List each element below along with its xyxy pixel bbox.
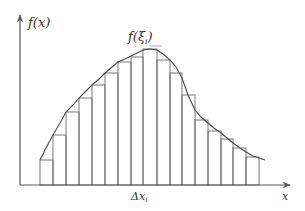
function-curve xyxy=(40,49,265,160)
rectangle-bars xyxy=(40,49,259,185)
riemann-rectangle xyxy=(221,139,233,185)
riemann-rectangle xyxy=(208,131,221,185)
riemann-rectangle xyxy=(182,95,195,185)
riemann-rectangle xyxy=(66,112,79,185)
riemann-rectangle xyxy=(53,135,66,185)
riemann-rectangle xyxy=(233,148,246,185)
riemann-rectangle xyxy=(118,62,131,185)
riemann-rectangle xyxy=(40,160,53,185)
sample-value-label: f(ξi) xyxy=(127,29,153,46)
riemann-rectangle xyxy=(92,85,105,185)
riemann-rectangle xyxy=(143,49,157,185)
riemann-rectangle xyxy=(131,57,143,185)
riemann-rectangle xyxy=(157,60,170,185)
riemann-rectangle xyxy=(195,120,208,185)
y-axis-label: f(x) xyxy=(27,15,50,30)
delta-x-label: Δxi xyxy=(130,190,147,204)
riemann-sum-diagram: f(x) f(ξi) Δxi x xyxy=(0,0,305,211)
riemann-rectangle xyxy=(246,157,259,185)
riemann-rectangle xyxy=(170,73,182,185)
riemann-rectangle xyxy=(79,98,92,185)
x-axis-label: x xyxy=(282,190,289,203)
riemann-rectangle xyxy=(105,73,118,185)
